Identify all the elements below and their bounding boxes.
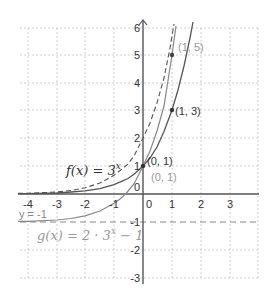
label-f-0-1: (0, 1) (147, 155, 173, 167)
svg-text:-3: -3 (52, 198, 62, 210)
label-g-1-5: (1, 5) (178, 41, 204, 53)
svg-text:1: 1 (169, 198, 175, 210)
svg-text:4: 4 (134, 77, 140, 89)
svg-text:6: 6 (134, 22, 140, 34)
svg-text:5: 5 (134, 49, 140, 61)
svg-text:-1: -1 (130, 216, 140, 228)
x-tick-labels: -4 -3 -2 -1 0 1 2 3 (23, 198, 233, 210)
asymptote-label: y = -1 (19, 208, 47, 220)
point-f-0-1[interactable] (141, 164, 145, 168)
svg-text:0: 0 (146, 198, 152, 210)
svg-text:-2: -2 (80, 198, 90, 210)
origin-label: 0 (134, 181, 140, 193)
svg-text:2: 2 (198, 198, 204, 210)
point-g-1-5[interactable] (170, 53, 174, 57)
g-equation: g(x) = 2 · 3x − 1 (37, 226, 143, 243)
label-g-0-1: (0, 1) (151, 171, 177, 183)
function-graph: -4 -3 -2 -1 0 1 2 3 6 5 4 3 2 1 -1 -2 -3… (0, 0, 269, 295)
f-equation: f(x) = 3x (65, 161, 121, 178)
point-f-1-3[interactable] (170, 108, 174, 112)
svg-text:-1: -1 (109, 198, 119, 210)
svg-text:3: 3 (134, 104, 140, 116)
svg-text:-2: -2 (130, 244, 140, 256)
svg-text:1: 1 (134, 160, 140, 172)
label-f-1-3: (1, 3) (175, 105, 201, 117)
svg-text:3: 3 (227, 198, 233, 210)
svg-text:2: 2 (134, 132, 140, 144)
svg-text:-3: -3 (130, 272, 140, 284)
